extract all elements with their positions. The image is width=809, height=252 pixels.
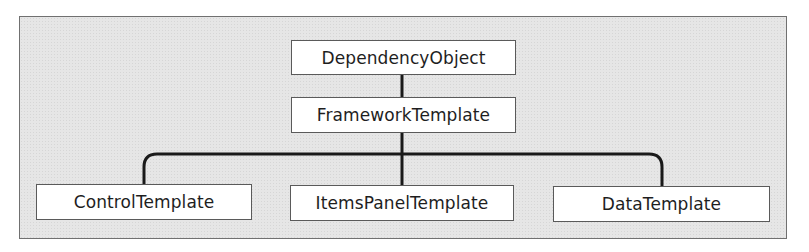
- node-data-template: DataTemplate: [553, 186, 770, 222]
- node-label: DataTemplate: [602, 194, 721, 214]
- node-label: FrameworkTemplate: [317, 105, 490, 125]
- node-dependency-object: DependencyObject: [291, 40, 516, 75]
- node-control-template: ControlTemplate: [36, 184, 252, 220]
- node-label: DependencyObject: [322, 48, 486, 68]
- node-label: ControlTemplate: [74, 192, 215, 212]
- node-items-panel-template: ItemsPanelTemplate: [290, 185, 514, 221]
- node-framework-template: FrameworkTemplate: [291, 97, 516, 133]
- node-label: ItemsPanelTemplate: [316, 193, 489, 213]
